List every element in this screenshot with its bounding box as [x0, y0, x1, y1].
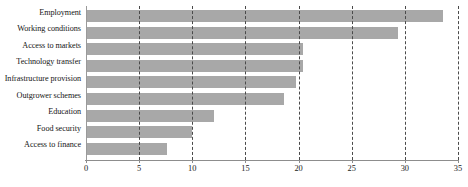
x-tick-label-30: 30	[393, 164, 417, 174]
x-tick-label-0: 0	[74, 164, 98, 174]
x-tick-5	[139, 160, 140, 163]
category-label: Access to finance	[0, 141, 81, 150]
caption-cutoff	[60, 179, 360, 187]
gridline-35	[458, 6, 459, 160]
category-label: Access to markets	[0, 42, 81, 51]
gridline-0	[86, 6, 87, 160]
category-axis: EmploymentWorking conditionsAccess to ma…	[0, 0, 84, 160]
x-tick-label-15: 15	[233, 164, 257, 174]
bar	[86, 110, 214, 122]
gridline-20	[299, 6, 300, 160]
x-tick-label-35: 35	[446, 164, 468, 174]
x-axis-line	[85, 160, 459, 161]
category-label: Education	[0, 108, 81, 117]
bar	[86, 60, 303, 72]
bar	[86, 76, 296, 88]
category-label: Employment	[0, 9, 81, 18]
category-label: Outgrower schemes	[0, 92, 81, 101]
x-tick-35	[458, 160, 459, 163]
x-tick-25	[352, 160, 353, 163]
horizontal-bar-chart: EmploymentWorking conditionsAccess to ma…	[0, 0, 468, 187]
gridline-15	[245, 6, 246, 160]
x-tick-label-5: 5	[127, 164, 151, 174]
x-tick-label-25: 25	[340, 164, 364, 174]
bar	[86, 43, 303, 55]
bar	[86, 93, 284, 105]
x-tick-15	[245, 160, 246, 163]
gridline-10	[192, 6, 193, 160]
plot-area	[86, 0, 458, 160]
x-tick-10	[192, 160, 193, 163]
category-label: Working conditions	[0, 25, 81, 34]
category-label: Technology transfer	[0, 58, 81, 67]
x-tick-30	[405, 160, 406, 163]
gridline-5	[139, 6, 140, 160]
category-label: Food security	[0, 125, 81, 134]
gridline-25	[352, 6, 353, 160]
bar	[86, 143, 167, 155]
x-tick-0	[86, 160, 87, 163]
category-label: Infrastructure provision	[0, 75, 81, 84]
x-tick-20	[299, 160, 300, 163]
gridline-30	[405, 6, 406, 160]
x-tick-label-10: 10	[180, 164, 204, 174]
x-tick-label-20: 20	[287, 164, 311, 174]
